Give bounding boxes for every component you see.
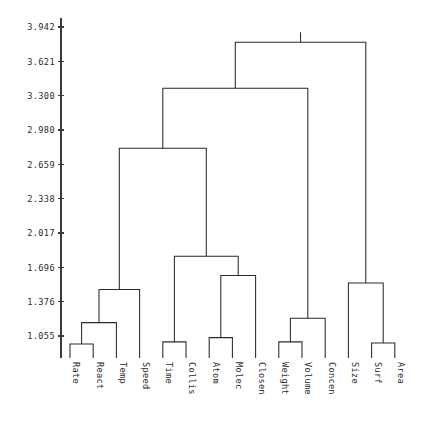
dendrogram-leaf-labels: RateReactTempSpeedTimeCollisAtomMolecClo… <box>71 362 406 395</box>
dendrogram-leaf-label-size: Size <box>350 362 360 384</box>
dendrogram-link <box>99 289 140 358</box>
dendrogram-leaf-label-atom: Atom <box>211 362 221 384</box>
y-axis-tick-label: 2.017 <box>27 228 55 238</box>
y-axis-tick-label: 2.659 <box>27 160 55 170</box>
y-axis-tick-label: 2.980 <box>27 125 55 135</box>
dendrogram-leaf-label-collis: Collis <box>187 362 197 395</box>
dendrogram-link <box>70 344 93 358</box>
y-axis-tick-label: 1.055 <box>27 331 55 341</box>
dendrogram-link <box>372 343 395 358</box>
dendrogram-link <box>119 148 206 289</box>
dendrogram-link <box>279 342 302 358</box>
dendrogram-links <box>70 32 395 358</box>
dendrogram-leaf-label-volume: Volume <box>303 362 313 395</box>
y-axis-tick-label: 3.942 <box>27 22 55 32</box>
dendrogram-leaf-label-react: React <box>95 362 105 389</box>
dendrogram-chart: 1.0551.3761.6962.0172.3382.6592.9803.300… <box>0 0 422 426</box>
dendrogram-link <box>174 256 238 342</box>
y-axis-tick-label: 2.338 <box>27 194 55 204</box>
dendrogram-link <box>163 88 308 318</box>
dendrogram-leaf-label-closen: Closen <box>257 362 267 395</box>
dendrogram-leaf-label-rate: Rate <box>71 362 81 384</box>
y-axis-tick-label: 1.696 <box>27 263 55 273</box>
y-axis-tick-label: 3.621 <box>27 57 55 67</box>
dendrogram-link <box>348 283 383 358</box>
dendrogram-link <box>235 42 365 283</box>
dendrogram-link <box>290 318 325 358</box>
dendrogram-leaf-label-speed: Speed <box>141 362 151 389</box>
dendrogram-leaf-label-time: Time <box>164 362 174 384</box>
dendrogram-leaf-label-surf: Surf <box>373 362 383 384</box>
dendrogram-link <box>82 323 117 358</box>
dendrogram-leaf-label-weight: Weight <box>280 362 290 395</box>
dendrogram-link <box>209 338 232 358</box>
dendrogram-leaf-label-temp: Temp <box>118 362 128 384</box>
dendrogram-leaf-label-concen: Concen <box>327 362 337 395</box>
dendrogram-leaf-label-area: Area <box>396 362 406 384</box>
dendrogram-plot: 1.0551.3761.6962.0172.3382.6592.9803.300… <box>0 0 422 426</box>
dendrogram-link <box>163 342 186 358</box>
y-axis-tick-label: 1.376 <box>27 297 55 307</box>
y-axis-tick-label: 3.300 <box>27 91 55 101</box>
y-axis: 1.0551.3761.6962.0172.3382.6592.9803.300… <box>27 18 64 358</box>
dendrogram-link <box>221 276 256 358</box>
dendrogram-leaf-label-molec: Molec <box>234 362 244 389</box>
